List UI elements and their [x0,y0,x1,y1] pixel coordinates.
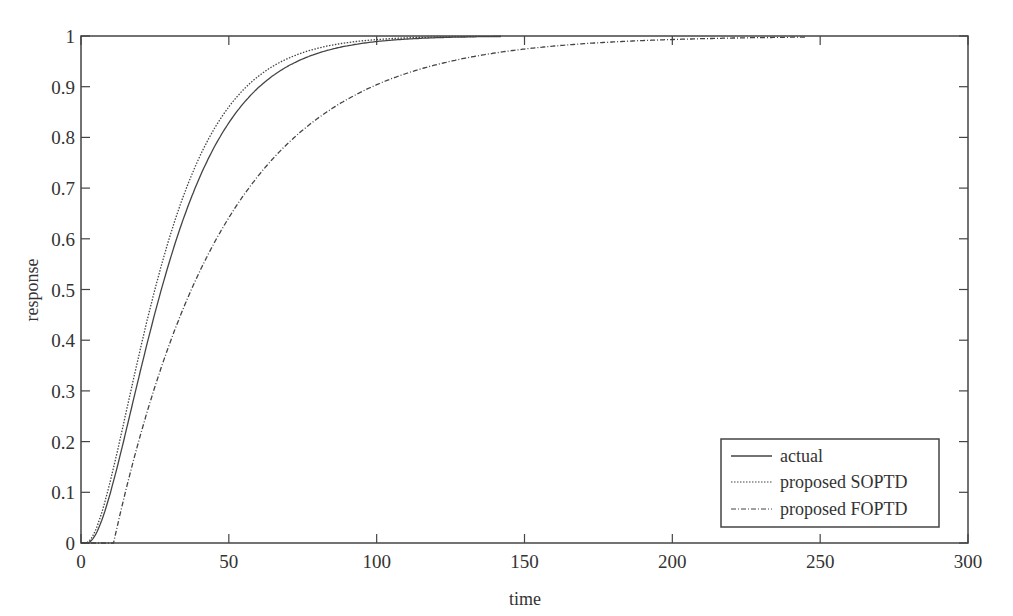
y-tick-label: 1 [66,26,76,47]
x-tick-label: 250 [806,551,835,572]
x-tick-label: 200 [658,551,687,572]
legend-label-foptd: proposed FOPTD [780,499,908,519]
series-line-0 [81,37,501,544]
x-tick-label: 150 [510,551,539,572]
legend-label-soptd: proposed SOPTD [780,472,908,492]
y-tick-label: 0.9 [51,77,75,98]
series-line-2 [81,37,805,543]
y-tick-label: 0.4 [51,330,75,351]
y-axis-label: response [22,258,42,321]
y-tick-label: 0 [66,533,76,554]
series-line-1 [81,36,501,543]
x-tick-label: 100 [362,551,391,572]
curves [81,36,805,543]
y-tick-label: 0.5 [51,280,75,301]
y-tick-label: 0.2 [51,432,75,453]
x-tick-label: 0 [76,551,86,572]
y-tick-label: 0.8 [51,127,75,148]
y-tick-label: 0.1 [51,482,75,503]
x-tick-label: 50 [219,551,238,572]
y-tick-label: 0.3 [51,381,75,402]
y-tick-label: 0.7 [51,178,75,199]
x-axis-label: time [509,589,541,609]
legend-label-actual: actual [780,446,823,466]
legend: actual proposed SOPTD proposed FOPTD [721,439,939,527]
y-tick-label: 0.6 [51,229,75,250]
line-chart: 05010015020025030000.10.20.30.40.50.60.7… [0,0,1013,616]
x-tick-label: 300 [954,551,983,572]
